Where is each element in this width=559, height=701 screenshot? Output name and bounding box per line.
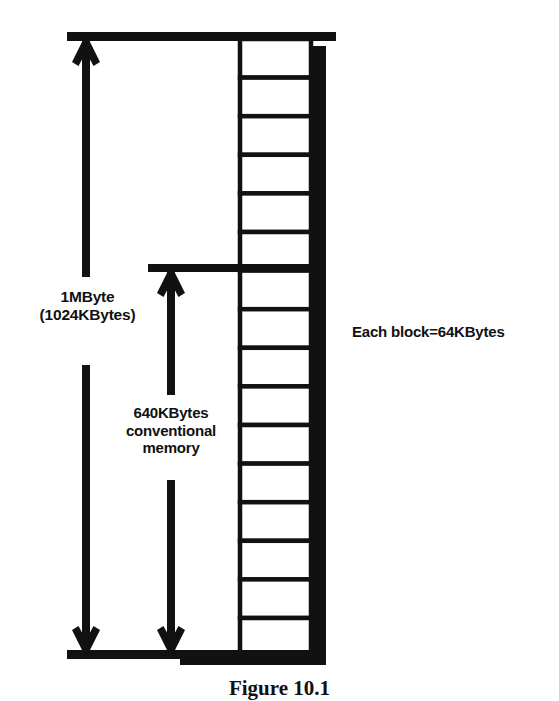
memory-block: [240, 348, 311, 387]
memory-block: [240, 39, 311, 78]
memory-block: [240, 464, 311, 503]
conventional-memory-label: 640KBytes conventional memory: [106, 404, 236, 457]
top-boundary-rule: [67, 32, 336, 41]
memory-block: [240, 579, 311, 618]
memory-block: [240, 309, 311, 348]
memory-block-column: [240, 39, 311, 657]
memory-block: [240, 541, 311, 580]
total-memory-label: 1MByte (1024KBytes): [0, 288, 175, 325]
memory-block: [240, 386, 311, 425]
memory-map-figure: [0, 0, 559, 701]
bottom-boundary-rule: [67, 650, 314, 659]
total-memory-dimension-arrow: [72, 34, 100, 658]
memory-block: [240, 155, 311, 194]
block-size-legend-label: Each block=64KBytes: [352, 323, 505, 341]
memory-block: [240, 193, 311, 232]
figure-caption: Figure 10.1: [0, 676, 559, 701]
memory-block: [240, 271, 311, 310]
memory-block: [240, 116, 311, 155]
memory-block: [240, 425, 311, 464]
memory-block: [240, 78, 311, 117]
memory-block: [240, 502, 311, 541]
